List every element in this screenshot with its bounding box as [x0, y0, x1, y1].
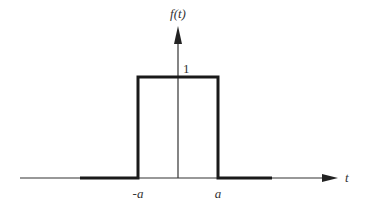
pulse-diagram: f(t) t 1 -a a: [0, 0, 366, 207]
f-axis-arrow-icon: [174, 26, 182, 44]
pulse-signal: [80, 77, 272, 178]
y-axis-label: f(t): [170, 6, 186, 21]
right-edge-label: a: [215, 186, 222, 201]
amplitude-label: 1: [183, 61, 190, 76]
x-axis-label: t: [345, 170, 349, 185]
t-axis-arrow-icon: [322, 174, 338, 182]
left-edge-label: -a: [133, 186, 144, 201]
